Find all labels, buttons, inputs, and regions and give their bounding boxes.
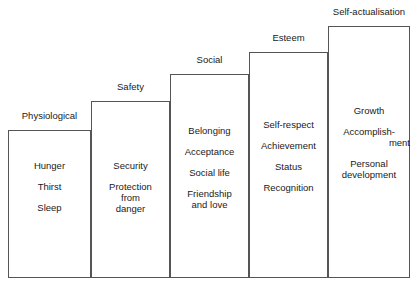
tier-item: Achievement xyxy=(249,140,328,151)
tier-item-line: and love xyxy=(170,199,249,210)
tier-item: Sleep xyxy=(8,202,91,213)
tier-item: Personal development xyxy=(328,158,410,180)
tier-label-physiological: Physiological xyxy=(8,110,91,121)
tier-item: Hunger xyxy=(8,160,91,171)
tier-item: Protection from danger xyxy=(91,181,170,214)
tier-item: Self-respect xyxy=(249,119,328,130)
maslow-hierarchy-diagram: Physiological Hunger Thirst Sleep Safety… xyxy=(0,0,419,288)
tier-label-social: Social xyxy=(170,54,249,65)
tier-item-line: development xyxy=(328,169,410,180)
tier-item-line: Accomplish- xyxy=(328,126,410,137)
tier-item: Status xyxy=(249,161,328,172)
tier-item: Recognition xyxy=(249,182,328,193)
tier-label-esteem: Esteem xyxy=(249,32,328,43)
tier-item-line: Security xyxy=(91,160,170,171)
tier-item-line: Friendship xyxy=(170,188,249,199)
baseline-rule xyxy=(8,277,410,278)
tier-item: Accomplish- ment xyxy=(328,126,410,148)
tier-item-line: from xyxy=(91,192,170,203)
tier-item: Security xyxy=(91,160,170,171)
tier-items-physiological: Hunger Thirst Sleep xyxy=(8,160,91,213)
tier-item-line: Protection xyxy=(91,181,170,192)
tier-item-line: danger xyxy=(91,203,170,214)
tier-label-self-actualisation: Self-actualisation xyxy=(328,6,410,17)
tier-item: Growth xyxy=(328,105,410,116)
tier-label-safety: Safety xyxy=(91,81,170,92)
tier-items-social: Belonging Acceptance Social life Friends… xyxy=(170,125,249,210)
tier-item: Friendship and love xyxy=(170,188,249,210)
tier-item: Social life xyxy=(170,167,249,178)
tier-items-esteem: Self-respect Achievement Status Recognit… xyxy=(249,119,328,193)
tier-item-line: ment xyxy=(328,137,410,148)
tier-item: Thirst xyxy=(8,181,91,192)
tier-items-self-actualisation: Growth Accomplish- ment Personal develop… xyxy=(328,105,410,180)
tier-item: Acceptance xyxy=(170,146,249,157)
tier-item: Belonging xyxy=(170,125,249,136)
tier-item-line: Personal xyxy=(328,158,410,169)
tier-items-safety: Security Protection from danger xyxy=(91,160,170,214)
